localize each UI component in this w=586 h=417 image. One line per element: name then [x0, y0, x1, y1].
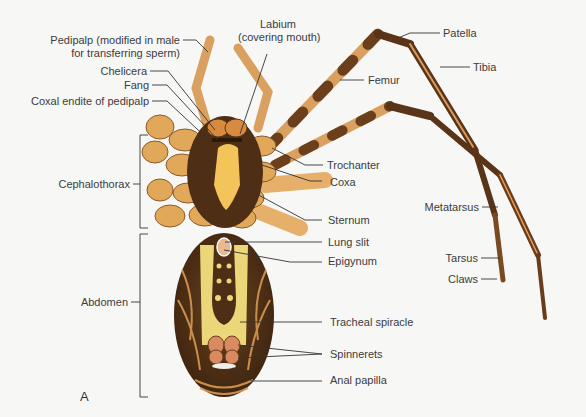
section-brackets — [131, 135, 148, 397]
label-coxa: Coxa — [330, 176, 356, 189]
label-spinnerets: Spinnerets — [330, 348, 383, 361]
panel-letter: A — [80, 389, 89, 404]
label-fang: Fang — [40, 79, 149, 92]
label-pedipalp-line1: Pedipalp (modified in male — [8, 34, 180, 47]
leg-right-1 — [268, 34, 503, 280]
spider-anatomy-diagram: Pedipalp (modified in male for transferr… — [0, 0, 586, 417]
label-patella: Patella — [443, 27, 477, 40]
label-tracheal-spiracle: Tracheal spiracle — [330, 316, 413, 329]
epigynum-shape — [217, 238, 231, 256]
label-chelicera: Chelicera — [40, 65, 147, 78]
label-metatarsus: Metatarsus — [400, 201, 479, 214]
label-tarsus: Tarsus — [420, 252, 478, 265]
label-trochanter: Trochanter — [327, 159, 380, 172]
spider-illustration — [0, 0, 586, 417]
label-lung-slit: Lung slit — [328, 236, 369, 249]
label-coxal-endite: Coxal endite of pedipalp — [0, 95, 149, 108]
label-anal-papilla: Anal papilla — [330, 374, 387, 387]
label-pedipalp: Pedipalp (modified in male for transferr… — [8, 34, 180, 60]
label-labium-line2: (covering mouth) — [238, 31, 318, 44]
label-epigynum: Epigynum — [328, 255, 377, 268]
label-labium: Labium (covering mouth) — [238, 18, 318, 44]
leg-right-4 — [255, 210, 300, 228]
label-cephalothorax: Cephalothorax — [20, 178, 130, 191]
label-tibia: Tibia — [473, 61, 496, 74]
label-labium-line1: Labium — [238, 18, 318, 31]
label-abdomen: Abdomen — [40, 296, 128, 309]
label-pedipalp-line2: for transferring sperm) — [8, 47, 180, 60]
label-claws: Claws — [420, 273, 478, 286]
label-femur: Femur — [368, 74, 400, 87]
label-sternum: Sternum — [328, 214, 370, 227]
